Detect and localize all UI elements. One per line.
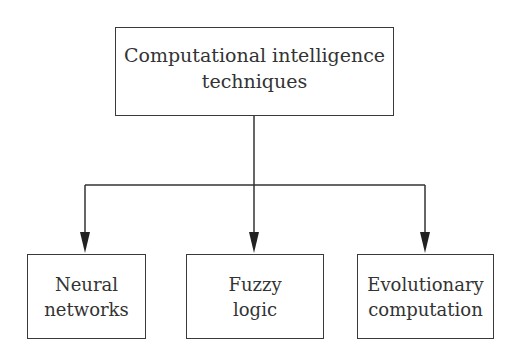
arrowhead-icon: [80, 232, 90, 253]
root-label-line-2: techniques: [202, 68, 307, 94]
arrowhead-icon: [420, 232, 430, 253]
child-label-line-1: Evolutionary: [367, 272, 483, 297]
child-label-line-2: computation: [368, 297, 483, 322]
child-node-fuzzy-logic: Fuzzy logic: [186, 254, 324, 339]
child-label-line-1: Neural: [55, 272, 118, 297]
child-node-neural-networks: Neural networks: [27, 254, 146, 339]
child-label-line-1: Fuzzy: [228, 272, 281, 297]
root-node: Computational intelligence techniques: [115, 27, 394, 116]
diagram-canvas: Computational intelligence techniques Ne…: [0, 0, 529, 361]
child-label-line-2: networks: [44, 297, 128, 322]
child-node-evolutionary-computation: Evolutionary computation: [357, 254, 494, 339]
child-label-line-2: logic: [233, 297, 277, 322]
root-label-line-1: Computational intelligence: [124, 42, 385, 68]
arrowhead-icon: [249, 232, 259, 253]
